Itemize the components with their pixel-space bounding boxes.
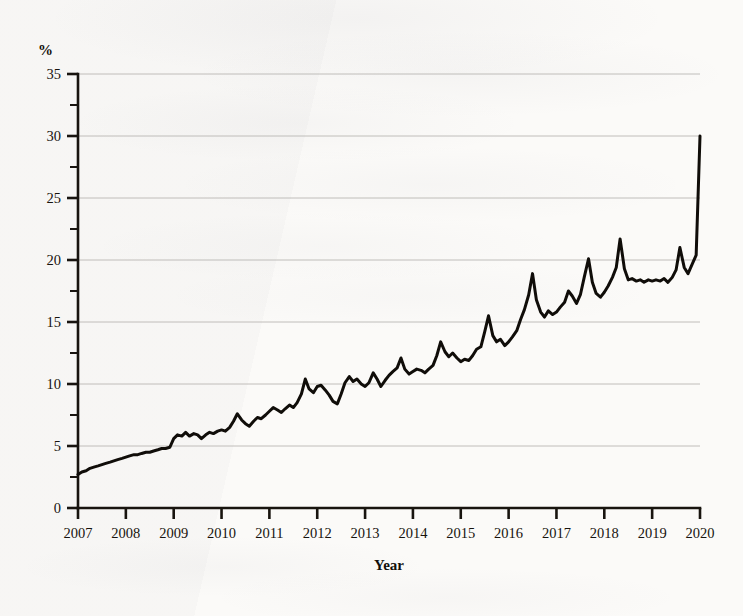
data-series-line — [78, 136, 700, 475]
x-tick-label: 2015 — [446, 525, 475, 541]
y-tick-label: 30 — [47, 128, 62, 144]
y-axis-title: % — [38, 42, 53, 58]
x-tick-label: 2013 — [351, 525, 380, 541]
y-tick-labels-group: 05101520253035 — [47, 66, 62, 516]
x-tick-label: 2019 — [638, 525, 667, 541]
x-tick-labels-group: 2007200820092010201120122013201420152016… — [64, 525, 715, 541]
x-tick-label: 2020 — [686, 525, 715, 541]
x-tick-label: 2014 — [398, 525, 428, 541]
y-tick-label: 0 — [54, 500, 61, 516]
x-tick-label: 2017 — [542, 525, 571, 541]
y-tick-label: 35 — [47, 66, 62, 82]
x-tick-label: 2007 — [64, 525, 93, 541]
y-tick-label: 10 — [47, 376, 62, 392]
gridlines-group — [78, 74, 700, 446]
y-tick-label: 5 — [54, 438, 61, 454]
x-tick-label: 2012 — [303, 525, 332, 541]
y-tick-label: 15 — [47, 314, 62, 330]
chart-canvas: 05101520253035 2007200820092010201120122… — [0, 0, 743, 616]
line-chart-figure: 05101520253035 2007200820092010201120122… — [0, 0, 743, 616]
x-tick-label: 2010 — [207, 525, 236, 541]
y-tick-label: 20 — [47, 252, 62, 268]
x-tick-label: 2011 — [255, 525, 283, 541]
x-tick-label: 2008 — [111, 525, 140, 541]
x-tick-label: 2009 — [159, 525, 188, 541]
y-tick-label: 25 — [47, 190, 62, 206]
x-axis-title: Year — [374, 557, 404, 573]
x-ticks-group — [78, 508, 700, 519]
x-tick-label: 2018 — [590, 525, 619, 541]
x-tick-label: 2016 — [494, 525, 523, 541]
